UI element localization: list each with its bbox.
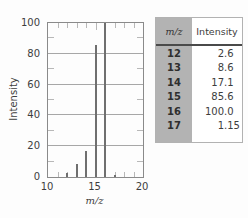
y-minor-tick	[48, 161, 54, 162]
intensity-fraction-part: .1	[224, 77, 237, 88]
x-minor-tick	[134, 172, 135, 177]
x-minor-tick	[77, 23, 78, 28]
x-minor-tick	[134, 23, 135, 28]
intensity-fraction-part: .15	[224, 120, 237, 131]
y-minor-tick	[137, 68, 143, 69]
mz-cell: 15	[156, 90, 192, 105]
intensity-integer-part: 85	[192, 91, 224, 102]
y-minor-tick	[137, 37, 143, 38]
y-tick-label: 20	[27, 140, 40, 151]
x-tick-label: 20	[136, 181, 149, 192]
spectrum-bar	[104, 23, 106, 177]
table-body: 122.6138.61417.11585.616100.0171.15	[156, 46, 242, 133]
spectrum-bar	[95, 45, 97, 177]
table-row: 16100.0	[156, 104, 242, 119]
intensity-integer-part: 1	[192, 120, 224, 131]
table-header-row: m/z Intensity	[156, 18, 242, 46]
table-row: 1417.1	[156, 75, 242, 90]
intensity-cell: 85.6	[192, 91, 242, 102]
y-minor-tick	[137, 161, 143, 162]
intensity-cell: 2.6	[192, 48, 242, 59]
y-minor-tick	[48, 130, 54, 131]
x-minor-tick	[58, 172, 59, 177]
intensity-cell: 17.1	[192, 77, 242, 88]
intensity-fraction-part: .0	[224, 106, 237, 117]
y-minor-tick	[48, 37, 54, 38]
mz-cell: 16	[156, 104, 192, 119]
y-tick-label: 100	[21, 17, 40, 28]
spectrum-bar	[66, 173, 68, 177]
x-tick-label: 15	[88, 181, 101, 192]
intensity-fraction-part: .6	[224, 91, 237, 102]
intensity-integer-part: 100	[192, 106, 224, 117]
y-tick-label: 60	[27, 78, 40, 89]
intensity-integer-part: 2	[192, 48, 224, 59]
intensity-header-cell: Intensity	[192, 26, 242, 37]
y-minor-tick	[137, 99, 143, 100]
x-minor-tick	[96, 23, 97, 30]
x-axis-tick-labels: 101520	[47, 181, 142, 193]
y-tick-label: 0	[34, 171, 40, 182]
intensity-integer-part: 17	[192, 77, 224, 88]
plot-area	[47, 22, 144, 178]
x-tick-label: 10	[41, 181, 54, 192]
table-row: 122.6	[156, 46, 242, 61]
table-row: 138.6	[156, 61, 242, 76]
intensity-fraction-part: .6	[224, 62, 237, 73]
table-row: 1585.6	[156, 90, 242, 105]
x-minor-tick	[58, 23, 59, 28]
y-minor-tick	[48, 99, 54, 100]
mz-header-cell: m/z	[156, 18, 192, 44]
intensity-fraction-part: .6	[224, 48, 237, 59]
x-minor-tick	[124, 23, 125, 28]
y-axis-tick-labels: 020406080100	[0, 22, 43, 176]
mass-spectrum-figure: Intensity 020406080100 101520 m/z m/z In…	[0, 0, 248, 218]
x-minor-tick	[124, 172, 125, 177]
x-minor-tick	[67, 23, 68, 28]
mz-cell: 17	[156, 119, 192, 134]
y-minor-tick	[48, 68, 54, 69]
spectrum-bar	[85, 151, 87, 177]
spectrum-bar	[76, 164, 78, 177]
intensity-integer-part: 8	[192, 62, 224, 73]
mz-intensity-table: m/z Intensity 122.6138.61417.11585.61610…	[155, 17, 243, 143]
spectrum-bar	[114, 175, 116, 177]
x-minor-tick	[86, 23, 87, 28]
x-minor-tick	[115, 23, 116, 28]
y-minor-tick	[137, 130, 143, 131]
mz-cell: 14	[156, 75, 192, 90]
intensity-cell: 1.15	[192, 120, 242, 131]
y-tick-label: 80	[27, 47, 40, 58]
mz-cell: 13	[156, 61, 192, 76]
x-axis-label: m/z	[47, 195, 142, 206]
intensity-cell: 100.0	[192, 106, 242, 117]
mz-cell: 12	[156, 46, 192, 61]
table-row: 171.15	[156, 119, 242, 134]
y-tick-label: 40	[27, 109, 40, 120]
intensity-cell: 8.6	[192, 62, 242, 73]
